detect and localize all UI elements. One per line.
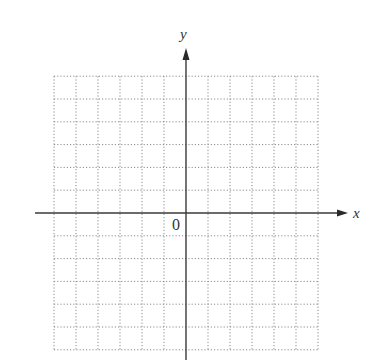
coordinate-plane: x y 0 (0, 0, 388, 360)
y-axis-label: y (178, 26, 187, 42)
x-axis-arrow-icon (337, 210, 348, 217)
x-axis-label: x (352, 205, 360, 221)
y-axis-arrow-icon (183, 48, 190, 60)
origin-label: 0 (172, 216, 180, 233)
